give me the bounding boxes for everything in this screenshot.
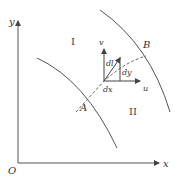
region-ii-label: II <box>129 106 137 117</box>
v-label: v <box>99 38 104 47</box>
curve-a-label: A <box>79 102 87 113</box>
region-i-label: I <box>71 36 75 47</box>
u-label: u <box>143 84 148 93</box>
curve-b-label: B <box>142 39 150 50</box>
diagram-svg: y x O A B I II v u dl dy dx <box>0 0 179 179</box>
y-axis-label: y <box>8 16 15 27</box>
flow-diagram: y x O A B I II v u dl dy dx <box>0 0 179 179</box>
dy-label: dy <box>122 68 132 77</box>
dl-label: dl <box>106 59 114 68</box>
curve-a <box>37 58 117 148</box>
dx-label: dx <box>103 85 113 94</box>
x-axis-label: x <box>163 158 169 169</box>
origin-label: O <box>8 165 16 176</box>
